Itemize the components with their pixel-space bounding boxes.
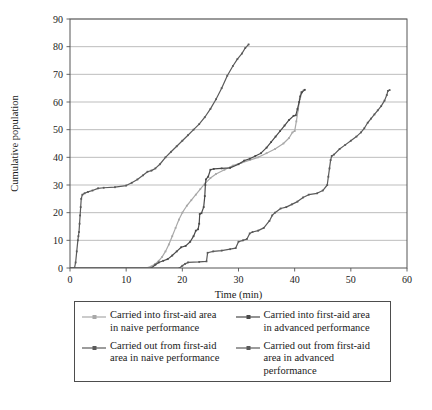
series-point-into_naive <box>181 212 183 214</box>
series-point-into_advanced <box>238 163 240 165</box>
y-tick-label: 0 <box>58 263 63 274</box>
series-point-into_advanced <box>288 119 290 121</box>
series-point-out_naive <box>154 168 156 170</box>
legend-marker-icon <box>235 341 261 355</box>
y-tick-label: 10 <box>53 235 63 246</box>
series-point-into_advanced <box>203 206 205 208</box>
x-axis-title: Time (min) <box>215 289 263 301</box>
x-tick-label: 30 <box>234 274 244 285</box>
figure-container: 01020304050600102030405060708090Time (mi… <box>0 0 432 410</box>
series-point-into_naive <box>190 199 192 201</box>
series-point-into_naive <box>295 120 297 122</box>
series-point-out_advanced <box>268 220 270 222</box>
series-point-into_advanced <box>266 147 268 149</box>
series-point-into_naive <box>266 152 268 154</box>
y-tick-label: 80 <box>53 41 63 52</box>
series-point-out_advanced <box>212 251 214 253</box>
series-point-out_advanced <box>387 90 389 92</box>
series-out_advanced <box>69 89 390 269</box>
series-point-out_advanced <box>252 231 254 233</box>
series-point-into_advanced <box>193 235 195 237</box>
series-point-out_naive <box>79 223 81 225</box>
series-point-out_naive <box>221 87 223 89</box>
series-point-into_naive <box>158 260 160 262</box>
series-point-out_naive <box>198 123 200 125</box>
series-point-into_advanced <box>189 241 191 243</box>
series-line-out_naive <box>70 44 249 268</box>
series-point-out_naive <box>92 190 94 192</box>
legend-marker-icon <box>81 341 107 355</box>
y-axis-title: Cumulative population <box>9 94 20 191</box>
series-line-into_naive <box>70 90 304 268</box>
series-point-out_advanced <box>344 144 346 146</box>
series-out_naive <box>69 44 249 269</box>
series-point-out_naive <box>232 65 234 67</box>
series-point-into_advanced <box>301 91 303 93</box>
series-point-out_advanced <box>370 118 372 120</box>
series-point-into_advanced <box>158 262 160 264</box>
series-point-out_advanced <box>329 168 331 170</box>
y-tick-label: 40 <box>53 152 63 163</box>
series-point-out_advanced <box>333 154 335 156</box>
series-point-out_naive <box>170 151 172 153</box>
legend-label: Carried into first-aid area in naive per… <box>110 309 216 334</box>
series-point-into_advanced <box>198 223 200 225</box>
series-point-out_naive <box>79 215 81 217</box>
series-point-into_advanced <box>249 158 251 160</box>
series-point-out_advanced <box>285 206 287 208</box>
y-tick-label: 30 <box>53 180 63 191</box>
series-point-out_advanced <box>207 252 209 254</box>
series-point-out_naive <box>80 206 82 208</box>
series-point-out_naive <box>204 116 206 118</box>
series-point-into_advanced <box>197 228 199 230</box>
series-point-out_advanced <box>327 176 329 178</box>
x-tick-label: 40 <box>290 274 300 285</box>
series-point-into_advanced <box>185 245 187 247</box>
series-point-out_advanced <box>363 127 365 129</box>
series-point-into_advanced <box>162 260 164 262</box>
series-point-out_naive <box>181 140 183 142</box>
legend-item-into-naive[interactable]: Carried into first-aid area in naive per… <box>81 309 233 338</box>
series-point-out_naive <box>87 191 89 193</box>
series-point-out_advanced <box>308 194 310 196</box>
series-point-out_naive <box>236 58 238 60</box>
series-point-out_naive <box>176 145 178 147</box>
series-point-into_advanced <box>213 168 215 170</box>
series-point-into_advanced <box>243 160 245 162</box>
series-point-into_naive <box>168 244 170 246</box>
series-point-out_advanced <box>198 261 200 263</box>
series-point-out_advanced <box>367 122 369 124</box>
series-point-out_naive <box>81 194 83 196</box>
legend-item-out-advanced[interactable]: Carried out from first-aid area in advan… <box>235 340 387 378</box>
y-tick-label: 90 <box>53 14 63 25</box>
series-point-into_advanced <box>205 179 207 181</box>
legend-item-out-naive[interactable]: Carried out from first-aid area in naive… <box>81 340 233 378</box>
y-tick-label: 50 <box>53 124 63 135</box>
series-point-out_advanced <box>206 260 208 262</box>
series-point-out_naive <box>103 187 105 189</box>
series-point-into_advanced <box>210 169 212 171</box>
series-point-out_naive <box>226 75 228 77</box>
series-point-out_advanced <box>257 230 259 232</box>
legend-item-into-advanced[interactable]: Carried into first-aid area in advanced … <box>235 309 387 338</box>
series-point-into_advanced <box>298 101 300 103</box>
series-point-into_naive <box>292 132 294 134</box>
series-point-out_advanced <box>360 132 362 134</box>
series-point-out_advanced <box>374 114 376 116</box>
series-point-out_naive <box>75 262 77 264</box>
series-point-into_naive <box>195 194 197 196</box>
series-point-out_advanced <box>331 155 333 157</box>
series-point-out_naive <box>248 44 250 46</box>
legend-label: Carried out from first-aid area in advan… <box>264 340 370 378</box>
series-point-into_advanced <box>204 184 206 186</box>
series-point-out_advanced <box>350 140 352 142</box>
series-point-into_naive <box>171 235 173 237</box>
series-point-out_advanced <box>322 190 324 192</box>
series-point-out_naive <box>131 182 133 184</box>
series-point-out_naive <box>80 198 82 200</box>
series-point-into_advanced <box>260 152 262 154</box>
series-point-out_advanced <box>384 100 386 102</box>
y-tick-label: 20 <box>53 207 63 218</box>
series-point-out_advanced <box>246 238 248 240</box>
series-point-into_naive <box>210 177 212 179</box>
